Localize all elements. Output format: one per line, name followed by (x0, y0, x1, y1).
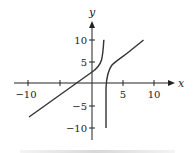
curve-left-branch (29, 40, 104, 117)
y-tick-label-5: 5 (81, 57, 87, 68)
y-tick-label-neg5: −5 (72, 101, 87, 112)
x-tick-label-5: 5 (120, 89, 126, 100)
y-tick-label-neg10: −10 (66, 123, 87, 134)
x-axis: −10 5 10 x (14, 77, 185, 100)
function-graph: −10 5 10 x 10 5 −5 −10 y (0, 0, 193, 153)
y-axis-label: y (88, 6, 96, 19)
x-axis-arrow-icon (168, 80, 175, 86)
bottom-divider (20, 150, 175, 153)
curve-right-branch (106, 40, 144, 128)
x-tick-label-10: 10 (148, 89, 161, 100)
x-tick-label-neg10: −10 (15, 89, 36, 100)
y-tick-label-10: 10 (74, 35, 87, 46)
y-axis-arrow-icon (89, 21, 95, 28)
x-axis-label: x (178, 77, 185, 90)
